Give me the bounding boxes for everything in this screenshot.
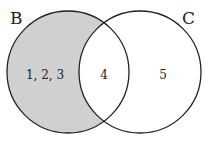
region-b-and-c: 4 [100,68,108,82]
set-c-label: C [182,8,195,28]
region-c-only: 5 [159,68,167,82]
region-b-only: 1, 2, 3 [26,68,64,82]
venn-diagram: B C 1, 2, 3 4 5 [0,0,211,144]
set-b-label: B [10,8,23,28]
